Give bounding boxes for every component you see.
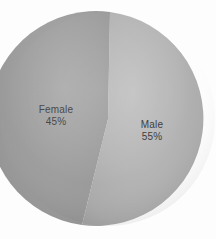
pie-chart-canvas: [0, 0, 216, 239]
pie-slices: [0, 11, 215, 226]
pie-shading-overlay: [1, 12, 215, 226]
pie-chart: Female 45% Male 55%: [0, 0, 216, 239]
